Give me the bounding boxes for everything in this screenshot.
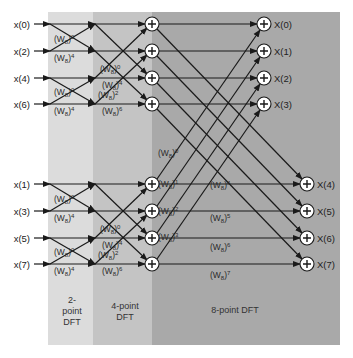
adder-stage2-top-1 xyxy=(145,44,159,58)
output-label-bottom-1: X(5) xyxy=(317,206,335,217)
input-label-top-1: x(2) xyxy=(14,46,30,57)
svg-text:DFT: DFT xyxy=(63,317,81,327)
adder-stage2-bottom-0 xyxy=(145,177,159,191)
adder-stage2-top-3 xyxy=(145,97,159,111)
adder-stage2-top-0 xyxy=(145,17,159,31)
adder-output-top-0 xyxy=(257,17,271,31)
adder-output-bottom-0 xyxy=(300,177,314,191)
output-label-top-3: X(3) xyxy=(274,99,292,110)
output-label-top-0: X(0) xyxy=(274,19,292,30)
adder-stage2-bottom-1 xyxy=(145,204,159,218)
input-label-bottom-2: x(5) xyxy=(14,233,30,244)
svg-text:2-: 2- xyxy=(68,295,76,305)
input-label-top-2: x(4) xyxy=(14,73,30,84)
input-label-bottom-1: x(3) xyxy=(14,206,30,217)
output-label-bottom-0: X(4) xyxy=(317,179,335,190)
input-label-top-3: x(6) xyxy=(14,99,30,110)
input-label-bottom-3: x(7) xyxy=(14,259,30,270)
adder-output-bottom-2 xyxy=(300,231,314,245)
adder-output-bottom-3 xyxy=(300,257,314,271)
fft-butterfly-diagram: (W8)0(W8)4(W8)0(W8)4(W8)0(W8)4(W8)2(W8)6… xyxy=(0,0,353,358)
stage-caption-8-point: 8-point DFT xyxy=(211,305,259,315)
adder-output-top-1 xyxy=(257,44,271,58)
output-label-bottom-2: X(6) xyxy=(317,233,335,244)
adder-output-bottom-1 xyxy=(300,204,314,218)
adder-output-top-3 xyxy=(257,97,271,111)
output-label-bottom-3: X(7) xyxy=(317,259,335,270)
svg-text:DFT: DFT xyxy=(116,312,134,322)
svg-text:4-point: 4-point xyxy=(111,301,139,311)
output-label-top-1: X(1) xyxy=(274,46,292,57)
input-label-top-0: x(0) xyxy=(14,19,30,30)
adder-output-top-2 xyxy=(257,71,271,85)
input-label-bottom-0: x(1) xyxy=(14,179,30,190)
output-label-top-2: X(2) xyxy=(274,73,292,84)
adder-stage2-bottom-3 xyxy=(145,257,159,271)
panel-4-point-dft xyxy=(93,12,152,345)
svg-text:point: point xyxy=(62,306,82,316)
adder-stage2-bottom-2 xyxy=(145,231,159,245)
adder-stage2-top-2 xyxy=(145,71,159,85)
